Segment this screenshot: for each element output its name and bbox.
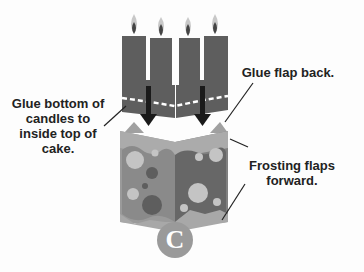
instruction-line: candles to [2, 111, 114, 126]
glue-flaps [124, 122, 228, 133]
instruction-line: cake. [2, 141, 114, 156]
frosting-line: forward. [238, 173, 346, 188]
candles [122, 14, 228, 118]
instruction-line: Glue bottom of [2, 96, 114, 111]
instruction-line: inside top of [2, 126, 114, 141]
step-letter: C [157, 222, 193, 258]
frosting-flaps-label: Frosting flaps forward. [238, 158, 346, 188]
down-arrow-icons [140, 86, 211, 126]
glue-flap-label: Glue flap back. [232, 65, 344, 80]
frosting-line: Frosting flaps [238, 158, 346, 173]
flame-icons [131, 14, 218, 36]
candle-glue-instruction: Glue bottom of candles to inside top of … [2, 96, 114, 156]
cake [120, 131, 228, 232]
